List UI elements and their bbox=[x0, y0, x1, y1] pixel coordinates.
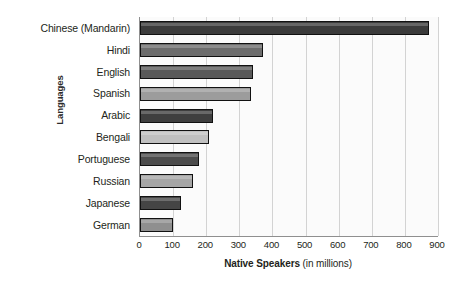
bar-highlight bbox=[141, 220, 172, 223]
bar-highlight bbox=[141, 45, 262, 48]
category-label: Russian bbox=[8, 170, 135, 192]
category-label: Spanish bbox=[8, 83, 135, 105]
bar bbox=[140, 43, 263, 57]
x-tick-label: 700 bbox=[363, 239, 378, 250]
bar bbox=[140, 130, 209, 144]
x-tick-label: 800 bbox=[396, 239, 411, 250]
plot-area bbox=[139, 17, 438, 237]
bar bbox=[140, 174, 193, 188]
x-tick-label: 200 bbox=[198, 239, 213, 250]
bar-highlight bbox=[141, 67, 252, 70]
x-axis-tick-labels: 0100200300400500600700800900 bbox=[139, 239, 437, 253]
bar-highlight bbox=[141, 198, 180, 201]
bar bbox=[140, 21, 429, 35]
bar bbox=[140, 152, 199, 166]
bar-series bbox=[140, 17, 438, 236]
gridline bbox=[438, 17, 439, 236]
bar bbox=[140, 218, 173, 232]
bar-row bbox=[140, 148, 438, 170]
x-tick-label: 900 bbox=[429, 239, 444, 250]
bar-row bbox=[140, 61, 438, 83]
bar-row bbox=[140, 127, 438, 149]
category-label: Chinese (Mandarin) bbox=[8, 17, 135, 39]
bar-row bbox=[140, 83, 438, 105]
bar-row bbox=[140, 17, 438, 39]
bar-highlight bbox=[141, 154, 198, 157]
x-axis-title: Native Speakers (in millions) bbox=[139, 258, 437, 269]
x-tick-label: 300 bbox=[231, 239, 246, 250]
category-label: Portuguese bbox=[8, 148, 135, 170]
bar-chart: Languages Chinese (Mandarin)HindiEnglish… bbox=[0, 0, 467, 282]
bar bbox=[140, 196, 181, 210]
category-label: Bengali bbox=[8, 127, 135, 149]
bar-highlight bbox=[141, 89, 250, 92]
bar-row bbox=[140, 39, 438, 61]
x-tick-label: 0 bbox=[136, 239, 141, 250]
x-tick-label: 400 bbox=[264, 239, 279, 250]
bar bbox=[140, 65, 253, 79]
category-label-list: Chinese (Mandarin)HindiEnglishSpanishAra… bbox=[8, 17, 135, 236]
x-tick-label: 500 bbox=[297, 239, 312, 250]
x-tick-label: 600 bbox=[330, 239, 345, 250]
bar-row bbox=[140, 170, 438, 192]
x-axis-title-unit-text: (in millions) bbox=[303, 258, 352, 269]
category-label: Arabic bbox=[8, 105, 135, 127]
bar-highlight bbox=[141, 132, 208, 135]
bar-row bbox=[140, 105, 438, 127]
bar-highlight bbox=[141, 23, 428, 26]
category-label: German bbox=[8, 214, 135, 236]
category-label: Japanese bbox=[8, 192, 135, 214]
category-label: English bbox=[8, 61, 135, 83]
x-axis-title-main: Native Speakers bbox=[224, 258, 300, 269]
bar-row bbox=[140, 192, 438, 214]
bar-highlight bbox=[141, 111, 212, 114]
category-label: Hindi bbox=[8, 39, 135, 61]
bar bbox=[140, 109, 213, 123]
bar bbox=[140, 87, 251, 101]
bar-row bbox=[140, 214, 438, 236]
bar-highlight bbox=[141, 176, 192, 179]
x-tick-label: 100 bbox=[164, 239, 179, 250]
